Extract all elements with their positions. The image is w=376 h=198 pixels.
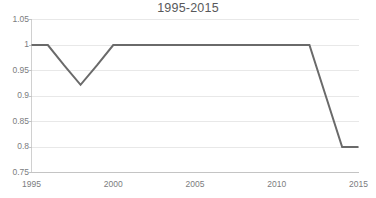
x-axis-tick-labels: 19952000200520102015 [0, 0, 376, 198]
line-chart: 1995-2015 0.750.80.850.90.9511.05 199520… [0, 0, 376, 198]
x-axis-tick-label: 2010 [267, 179, 286, 189]
x-axis-tick-label: 2015 [349, 179, 368, 189]
x-axis-tick-label: 1995 [22, 179, 41, 189]
x-axis-tick-label: 2005 [186, 179, 205, 189]
x-axis-tick-label: 2000 [104, 179, 123, 189]
